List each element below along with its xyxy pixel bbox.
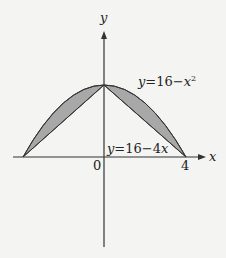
diagram-canvas: y x 0 4 y=16−x2 y=16−4x	[0, 0, 226, 258]
parabola-label-eq: =16−	[145, 74, 183, 89]
y-axis-label: y	[99, 10, 108, 25]
line-left	[23, 85, 104, 157]
origin-label: 0	[93, 158, 101, 173]
y-axis-arrow-icon	[101, 31, 107, 39]
line-label-x: x	[161, 141, 169, 156]
parabola-label: y=16−x2	[137, 74, 196, 89]
x-axis-arrow-icon	[198, 154, 206, 160]
line-label-eq: =16−4	[114, 141, 161, 156]
line-label: y=16−4x	[106, 141, 169, 156]
x-axis-label: x	[209, 149, 217, 164]
parabola-label-exp: 2	[191, 74, 196, 83]
x-tick-4-label: 4	[181, 158, 189, 173]
